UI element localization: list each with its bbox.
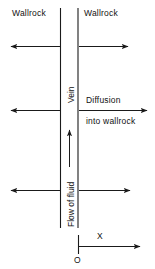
origin-label: O xyxy=(74,255,81,265)
into-wallrock-label: into wallrock xyxy=(86,116,135,126)
diagram-canvas xyxy=(0,0,155,269)
diffusion-label: Diffusion xyxy=(86,95,121,105)
axis-x-label: X xyxy=(97,231,103,241)
vein-label: Vein xyxy=(66,86,76,103)
flow-of-fluid-label: Flow of fluid xyxy=(66,182,76,227)
wallrock-right-label: Wallrock xyxy=(84,8,118,18)
wallrock-left-label: Wallrock xyxy=(12,8,46,18)
vein-diffusion-diagram: Wallrock Wallrock Vein Flow of fluid Dif… xyxy=(0,0,155,269)
